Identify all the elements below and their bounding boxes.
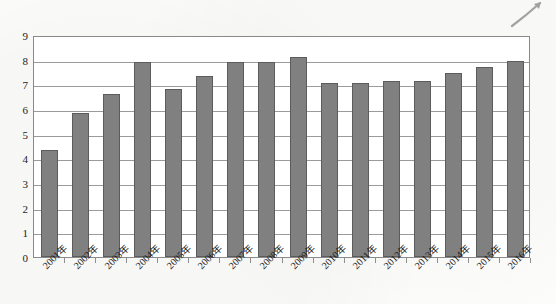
y-tick-label: 4 [2, 154, 28, 165]
bar [134, 62, 151, 257]
bar [227, 62, 244, 257]
y-axis: 9876543210 [0, 36, 28, 258]
bar [414, 81, 431, 257]
bar [321, 83, 338, 257]
y-tick-label: 5 [2, 129, 28, 140]
bar [445, 73, 462, 257]
bar [258, 62, 275, 257]
x-axis: 2001年2002年2003年2004年2005年2006年2007年2008年… [0, 258, 556, 304]
y-tick-label: 2 [2, 203, 28, 214]
scanned-page: 9876543210 2001年2002年2003年2004年2005年2006… [0, 0, 556, 304]
plot-area [33, 36, 530, 258]
y-tick-label: 9 [2, 31, 28, 42]
bar [507, 61, 524, 257]
bars-layer [34, 37, 529, 257]
y-tick-label: 7 [2, 80, 28, 91]
bar [476, 67, 493, 257]
bar [352, 83, 369, 257]
bar [290, 57, 307, 257]
bar-chart: 9876543210 2001年2002年2003年2004年2005年2006… [0, 0, 556, 304]
bar [41, 150, 58, 257]
y-tick-label: 3 [2, 179, 28, 190]
bar [165, 89, 182, 257]
y-tick-label: 8 [2, 55, 28, 66]
y-tick-label: 6 [2, 105, 28, 116]
y-tick-label: 1 [2, 228, 28, 239]
bar [72, 113, 89, 257]
bar [103, 94, 120, 257]
bar [196, 76, 213, 257]
bar [383, 81, 400, 257]
